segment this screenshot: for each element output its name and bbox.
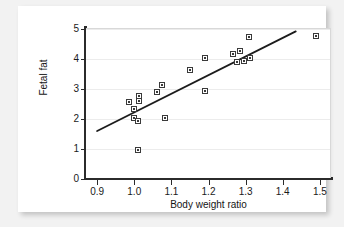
y-axis-tick-label: 2 <box>73 114 79 124</box>
x-axis-tick <box>134 180 135 185</box>
data-point-marker <box>246 34 252 40</box>
x-axis-tick <box>97 180 98 185</box>
data-point-marker <box>126 99 132 105</box>
data-point-marker <box>234 59 240 65</box>
data-point-marker <box>136 98 142 104</box>
y-axis-title: Fetal fat <box>38 47 49 109</box>
regression-line <box>86 29 331 179</box>
x-axis-title: Body weight ratio <box>86 199 331 210</box>
x-axis-tick-label: 1.4 <box>276 187 290 197</box>
y-axis-tick-label: 3 <box>73 84 79 94</box>
scatter-plot-figure: 012345 0.91.01.11.21.31.41.5 Body weight… <box>0 0 344 227</box>
y-axis-tick-label: 4 <box>73 54 79 64</box>
data-point-marker <box>131 106 137 112</box>
x-axis-tick <box>171 180 172 185</box>
data-point-marker <box>154 89 160 95</box>
data-point-marker <box>159 82 165 88</box>
y-axis-tick-label: 5 <box>73 24 79 34</box>
chart-paper-panel: 012345 0.91.01.11.21.31.41.5 Body weight… <box>18 6 326 212</box>
y-axis-tick-label: 0 <box>73 174 79 184</box>
x-axis-tick <box>283 180 284 185</box>
data-point-marker <box>202 88 208 94</box>
data-point-marker <box>247 55 253 61</box>
x-axis-tick-label: 1.3 <box>239 187 253 197</box>
x-axis-tick <box>209 180 210 185</box>
x-axis-tick-label: 0.9 <box>90 187 104 197</box>
data-point-marker <box>237 48 243 54</box>
x-axis-tick <box>320 180 321 185</box>
x-axis-tick-label: 1.0 <box>127 187 141 197</box>
plot-area: 012345 <box>86 28 331 178</box>
x-axis-tick-label: 1.5 <box>313 187 327 197</box>
data-point-marker <box>187 67 193 73</box>
data-point-marker <box>162 115 168 121</box>
x-axis-tick-label: 1.2 <box>202 187 216 197</box>
data-point-marker <box>135 147 141 153</box>
x-axis-tick-label: 1.1 <box>164 187 178 197</box>
data-point-marker <box>241 58 247 64</box>
y-axis-tick-label: 1 <box>73 144 79 154</box>
data-point-marker <box>230 51 236 57</box>
x-axis-tick <box>246 180 247 185</box>
data-point-marker <box>313 33 319 39</box>
data-point-marker <box>135 118 141 124</box>
data-point-marker <box>202 55 208 61</box>
